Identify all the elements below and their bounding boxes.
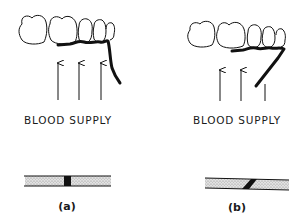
- panel-b-blood-supply-label: BLOOD SUPPLY: [193, 114, 281, 126]
- figure-canvas: [0, 0, 303, 223]
- panel-b-caption: (b): [228, 201, 246, 214]
- vertical-fracture-block: [64, 176, 71, 186]
- panel-a-teeth: [19, 15, 115, 44]
- panel-a-bone-diagram: [24, 176, 111, 186]
- panel-a-caption: (a): [58, 200, 75, 213]
- panel-b-fracture-line: [232, 48, 284, 86]
- panel-a-blood-supply-label: BLOOD SUPPLY: [24, 114, 112, 126]
- panel-b-bone-diagram: [205, 178, 289, 190]
- panel-b-teeth: [188, 21, 286, 48]
- panel-a-fracture-line: [58, 41, 120, 83]
- panel-a-blood-supply-arrows: [58, 63, 101, 100]
